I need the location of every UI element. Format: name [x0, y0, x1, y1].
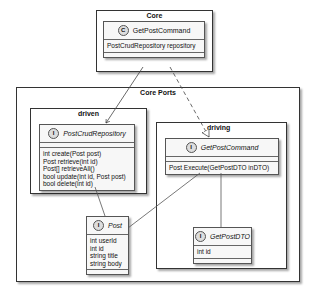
interface-stereotype-icon: I — [186, 142, 197, 153]
member: Post[] retrieveAll() — [43, 165, 131, 173]
member: string title — [90, 252, 125, 260]
class-name: PostCrudRepository — [63, 130, 126, 137]
interface-stereotype-icon: I — [93, 220, 104, 231]
interface-stereotype-icon: I — [48, 128, 59, 139]
class-members: PostCrudRepository repository — [104, 40, 204, 53]
class-members: int create(Post post) Post retrieve(int … — [40, 148, 134, 190]
member: string body — [90, 260, 125, 268]
interface-get-post-command[interactable]: I GetPostCommand Post Execute(GetPostDTO… — [165, 138, 279, 175]
member: Post retrieve(int id) — [43, 158, 131, 166]
class-header: I GetPostCommand — [166, 139, 278, 157]
package-title: Core — [97, 12, 212, 19]
member: int userId — [90, 237, 125, 245]
class-header: I Post — [87, 217, 128, 235]
member: int id — [90, 245, 125, 253]
class-get-post-command[interactable]: C GetPostCommand PostCrudRepository repo… — [103, 21, 205, 58]
interface-stereotype-icon: I — [195, 231, 206, 242]
class-name: GetPostCommand — [201, 144, 259, 151]
class-members: Post Execute(GetPostDTO inDTO) — [166, 162, 278, 174]
class-header: C GetPostCommand — [104, 22, 204, 40]
class-header: I GetPostDTO — [194, 228, 251, 246]
package-title: driving — [207, 124, 286, 131]
class-stereotype-icon: C — [118, 25, 129, 36]
package-title: Core Ports — [17, 89, 299, 96]
class-header: I PostCrudRepository — [40, 125, 134, 143]
class-members: int id — [194, 246, 251, 259]
interface-get-post-dto[interactable]: I GetPostDTO int id — [193, 227, 252, 264]
member: Post Execute(GetPostDTO inDTO) — [169, 164, 275, 172]
member: int create(Post post) — [43, 150, 131, 158]
package-title: driven — [31, 110, 146, 117]
class-members: int userId int id string title string bo… — [87, 235, 128, 270]
member: bool update(int id, Post post) — [43, 173, 131, 181]
interface-post-crud-repository[interactable]: I PostCrudRepository int create(Post pos… — [39, 124, 135, 191]
class-name: GetPostCommand — [133, 27, 191, 34]
class-name: Post — [108, 222, 122, 229]
member: int id — [197, 248, 248, 256]
interface-post[interactable]: I Post int userId int id string title st… — [86, 216, 129, 275]
member: PostCrudRepository repository — [107, 42, 201, 50]
member: bool delete(int id) — [43, 180, 131, 188]
class-name: GetPostDTO — [210, 233, 250, 240]
